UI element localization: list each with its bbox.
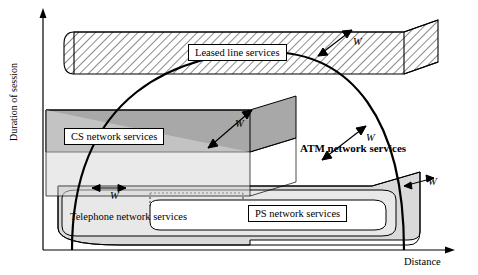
w-label-telephone: W (110, 190, 119, 201)
w-label-ps: W (428, 176, 437, 187)
leased-line-services-label: Leased line services (188, 44, 287, 61)
x-axis-label: Distance (404, 256, 441, 267)
atm-network-services-label: ATM network services (300, 142, 406, 154)
figure-canvas: Duration of session Distance Leased line… (0, 0, 478, 275)
w-label-atm: W (366, 132, 375, 143)
telephone-network-services-label: Telephone network services (70, 211, 187, 222)
w-label-leased: W (353, 36, 362, 47)
cs-network-services-label: CS network services (64, 128, 164, 145)
ps-network-services-label: PS network services (248, 205, 347, 222)
w-label-cs: W (235, 118, 244, 129)
y-axis-label: Duration of session (6, 34, 22, 174)
